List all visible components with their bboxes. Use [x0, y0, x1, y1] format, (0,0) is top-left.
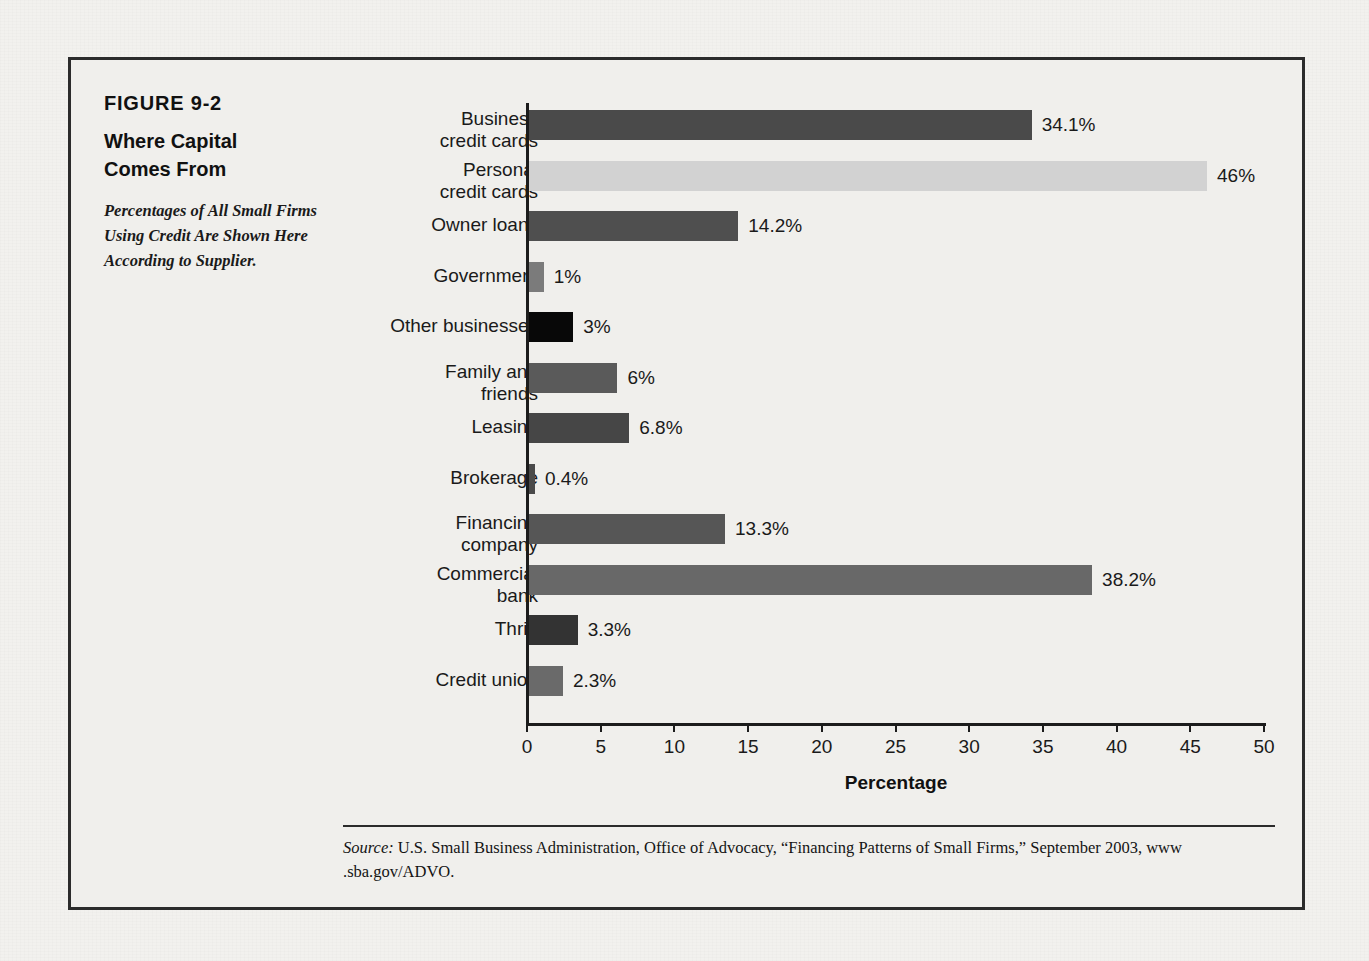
category-label: Owner loans — [238, 214, 538, 236]
x-tick-label: 45 — [1180, 736, 1201, 758]
x-tick-mark — [1042, 723, 1044, 732]
category-label-line: Financing — [456, 512, 538, 533]
category-label: Thrift — [238, 618, 538, 640]
bar[interactable] — [529, 110, 1032, 140]
bar[interactable] — [529, 413, 629, 443]
bar[interactable] — [529, 363, 617, 393]
x-tick-label: 10 — [664, 736, 685, 758]
category-label-line: Commercial — [437, 563, 538, 584]
source-note: Source: U.S. Small Business Administrati… — [343, 836, 1285, 884]
bar-value-label: 38.2% — [1102, 569, 1156, 591]
category-label: Other businesses — [238, 315, 538, 337]
x-tick-mark — [1116, 723, 1118, 732]
category-label-line: Business — [461, 108, 538, 129]
category-label: Financingcompany — [238, 512, 538, 557]
bar-value-label: 6.8% — [639, 417, 682, 439]
x-tick-label: 20 — [811, 736, 832, 758]
x-tick-label: 35 — [1032, 736, 1053, 758]
x-tick-label: 30 — [959, 736, 980, 758]
bar-value-label: 3.3% — [588, 619, 631, 641]
bar-value-label: 6% — [627, 367, 654, 389]
x-tick-mark — [747, 723, 749, 732]
bar-value-label: 14.2% — [748, 215, 802, 237]
category-label: Businesscredit cards — [238, 108, 538, 153]
bar[interactable] — [529, 161, 1207, 191]
bar-value-label: 1% — [554, 266, 581, 288]
x-tick-mark — [821, 723, 823, 732]
bar[interactable] — [529, 211, 738, 241]
category-label: Family andfriends — [238, 361, 538, 406]
bar-value-label: 2.3% — [573, 670, 616, 692]
bar[interactable] — [529, 464, 535, 494]
x-tick-mark — [600, 723, 602, 732]
source-text: U.S. Small Business Administration, Offi… — [343, 838, 1182, 881]
x-tick-mark — [526, 723, 528, 732]
category-label-line: Brokerage — [450, 467, 538, 488]
category-label-line: Other businesses — [390, 315, 538, 336]
category-label: Credit union — [238, 669, 538, 691]
bar-chart: 05101520253035404550 Businesscredit card… — [71, 60, 1302, 907]
category-label-line: Government — [433, 265, 538, 286]
x-tick-mark — [673, 723, 675, 732]
bar[interactable] — [529, 312, 573, 342]
figure-frame: FIGURE 9-2 Where Capital Comes From Perc… — [68, 57, 1305, 910]
category-label-line: credit cards — [440, 181, 538, 202]
category-label: Personalcredit cards — [238, 159, 538, 204]
bar[interactable] — [529, 565, 1092, 595]
category-label: Commercialbank — [238, 563, 538, 608]
x-tick-label: 50 — [1253, 736, 1274, 758]
x-axis-title: Percentage — [526, 772, 1266, 794]
category-label-line: company — [461, 534, 538, 555]
bar-value-label: 34.1% — [1042, 114, 1096, 136]
category-label-line: Credit union — [436, 669, 538, 690]
category-label-line: Family and — [445, 361, 538, 382]
category-label: Leasing — [238, 416, 538, 438]
bar[interactable] — [529, 666, 563, 696]
category-label-line: Personal — [463, 159, 538, 180]
source-divider — [343, 825, 1275, 827]
x-tick-label: 25 — [885, 736, 906, 758]
bar-value-label: 46% — [1217, 165, 1255, 187]
category-label-line: Owner loans — [431, 214, 538, 235]
bar[interactable] — [529, 615, 578, 645]
source-label: Source: — [343, 838, 394, 857]
x-tick-mark — [1263, 723, 1265, 732]
x-tick-mark — [968, 723, 970, 732]
x-tick-mark — [895, 723, 897, 732]
x-tick-label: 15 — [738, 736, 759, 758]
x-tick-label: 0 — [522, 736, 533, 758]
bar[interactable] — [529, 262, 544, 292]
bar[interactable] — [529, 514, 725, 544]
category-label: Government — [238, 265, 538, 287]
bar-value-label: 3% — [583, 316, 610, 338]
bar-value-label: 0.4% — [545, 468, 588, 490]
x-tick-mark — [1189, 723, 1191, 732]
category-label-line: credit cards — [440, 130, 538, 151]
category-label: Brokerage — [238, 467, 538, 489]
bar-value-label: 13.3% — [735, 518, 789, 540]
x-tick-label: 40 — [1106, 736, 1127, 758]
x-tick-label: 5 — [595, 736, 606, 758]
